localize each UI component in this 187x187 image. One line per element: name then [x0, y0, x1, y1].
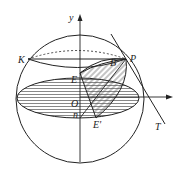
- label-E: E: [70, 74, 77, 85]
- sphere-diagram: y K P B E O n E' T: [0, 0, 187, 187]
- y-axis-arrow: [78, 14, 83, 21]
- label-T: T: [155, 121, 162, 132]
- label-O: O: [71, 98, 78, 109]
- x-axis-arrow: [166, 95, 173, 100]
- label-y: y: [68, 12, 74, 23]
- label-K: K: [17, 54, 26, 65]
- label-P: P: [129, 53, 136, 64]
- label-n: n: [73, 109, 78, 120]
- label-E-prime: E': [92, 119, 102, 130]
- label-B: B: [110, 57, 116, 68]
